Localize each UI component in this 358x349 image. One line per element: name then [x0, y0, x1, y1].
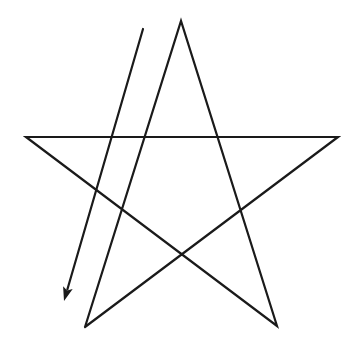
pentagram-star — [26, 21, 338, 327]
diagram-canvas — [0, 0, 358, 349]
pentagram-diagram — [0, 0, 358, 349]
arrow-shaft — [67, 29, 143, 289]
